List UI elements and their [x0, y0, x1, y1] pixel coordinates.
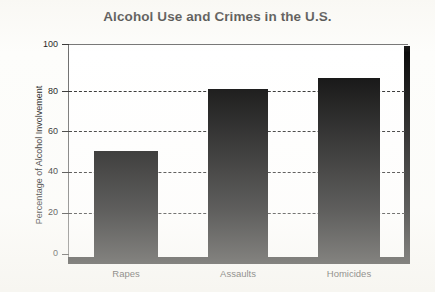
y-tick-label-80: 80	[22, 86, 58, 96]
x-tick-label-assaults: Assaults	[198, 268, 278, 279]
y-tick-mark-0	[62, 254, 69, 255]
plot-right-border	[404, 46, 410, 260]
y-axis-title: Percentage of Alcohol Involvement	[34, 55, 44, 255]
y-tick-label-40: 40	[22, 166, 58, 176]
bar-chart-figure: Alcohol Use and Crimes in the U.S. Perce…	[0, 0, 435, 292]
y-tick-label-20: 20	[22, 207, 58, 217]
y-tick-label-60: 60	[22, 126, 58, 136]
y-tick-label-0: 0	[22, 248, 58, 258]
y-tick-mark-60	[62, 131, 69, 132]
y-tick-mark-20	[62, 213, 69, 214]
x-tick-label-rapes: Rapes	[86, 268, 166, 279]
bar-rapes	[94, 151, 158, 259]
y-tick-label-100: 100	[22, 39, 58, 49]
x-tick-label-homicides: Homicides	[309, 268, 389, 279]
y-tick-mark-40	[62, 172, 69, 173]
y-tick-mark-100	[62, 44, 69, 45]
bar-homicides	[318, 78, 380, 259]
chart-title: Alcohol Use and Crimes in the U.S.	[0, 9, 435, 24]
y-tick-mark-80	[62, 91, 69, 92]
bar-assaults	[208, 89, 268, 259]
